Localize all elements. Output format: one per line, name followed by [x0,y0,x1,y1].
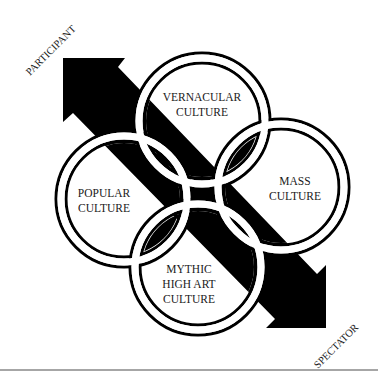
svg-text:CULTURE: CULTURE [269,190,321,202]
svg-text:MYTHIC: MYTHIC [166,263,212,275]
mythic-high-art-culture-label: MYTHIC HIGH ART CULTURE [162,263,215,305]
svg-text:CULTURE: CULTURE [176,106,228,118]
svg-text:MASS: MASS [279,175,310,187]
svg-text:CULTURE: CULTURE [163,293,215,305]
svg-text:VERNACULAR: VERNACULAR [163,91,242,103]
svg-text:HIGH ART: HIGH ART [162,278,215,290]
svg-text:CULTURE: CULTURE [78,202,130,214]
culture-diagram: VERNACULAR CULTURE POPULAR CULTURE MASS … [0,0,384,386]
spectator-label: SPECTATOR [312,322,361,371]
svg-text:POPULAR: POPULAR [78,187,131,199]
